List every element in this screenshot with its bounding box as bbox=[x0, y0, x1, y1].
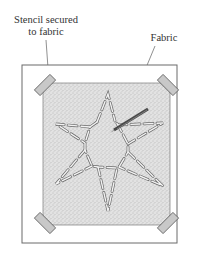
stencil-diagram bbox=[0, 0, 199, 259]
